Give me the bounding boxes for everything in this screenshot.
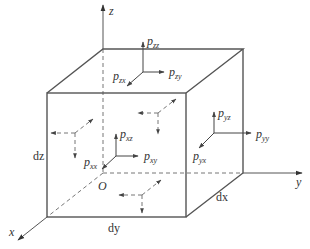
bottom-face-stress (119, 180, 161, 213)
back-face-stress (138, 99, 176, 134)
labels: z y x O dz dy dx pzz pzx pzy pxz pxx pxy… (8, 4, 302, 239)
stress-cube-diagram: z y x O dz dy dx pzz pzx pzy pxz pxx pxy… (0, 0, 310, 249)
top-face-edges (47, 49, 243, 93)
dy-label: dy (108, 221, 120, 235)
p-zx-arrow (127, 72, 143, 86)
p-yx-label: pyx (192, 149, 207, 165)
p-yy-label: pyy (255, 127, 270, 143)
p-yx-arrow (199, 133, 214, 148)
left-face-stress (51, 119, 93, 158)
y-axis-label: y (295, 175, 302, 189)
x-axis-label: x (8, 225, 15, 239)
p-xx-arrow (102, 156, 116, 169)
p-xz-label: pxz (119, 127, 134, 143)
dz-label: dz (33, 149, 44, 163)
dx-label: dx (216, 190, 228, 204)
p-xx-label: pxx (83, 155, 98, 171)
axes (18, 5, 302, 240)
hidden-edge-x (47, 173, 103, 217)
p-zz-label: pzz (146, 34, 160, 50)
origin-label: O (98, 179, 107, 193)
z-axis-label: z (108, 4, 114, 18)
diagram-canvas: z y x O dz dy dx pzz pzx pzy pxz pxx pxy… (0, 0, 310, 249)
p-zy-label: pzy (168, 65, 182, 81)
p-xy-label: pxy (143, 149, 158, 165)
p-yz-label: pyz (217, 106, 232, 122)
p-zx-label: pzx (112, 69, 126, 85)
hidden-face-stresses (51, 99, 176, 213)
x-axis (18, 217, 47, 240)
